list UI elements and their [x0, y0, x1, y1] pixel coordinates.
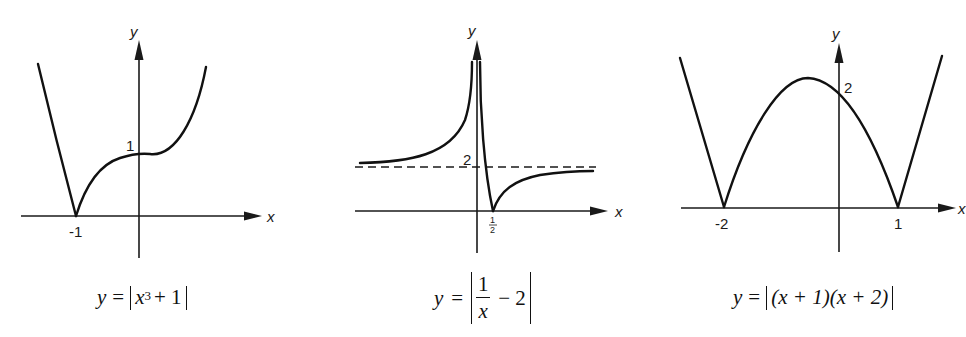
- graph-3-caption: y = (x + 1)(x + 2): [733, 285, 893, 310]
- graph-3-x-label: x: [957, 200, 966, 217]
- caption-2-eq: =: [451, 286, 463, 311]
- caption-1-base: x: [135, 285, 144, 310]
- figure-absolute-value-graphs: y x -1 1 y x 2 1: [0, 0, 966, 337]
- caption-1-rest: + 1: [154, 285, 182, 310]
- graph-3-tick-neg2: -2: [715, 215, 728, 232]
- graph-3-tick-1: 1: [894, 215, 902, 232]
- graph-1-y-arrow-icon: [135, 40, 144, 60]
- graph-1-x-arrow-icon: [244, 212, 262, 221]
- graph-1-caption: y = x3 + 1: [97, 285, 187, 310]
- graph-2-x-label: x: [614, 203, 623, 220]
- caption-3-lhs: y: [733, 285, 742, 310]
- graph-3-y-arrow-icon: [835, 43, 844, 63]
- graph-2-curve-right: [493, 171, 593, 211]
- graph-2-tick-2: 2: [463, 151, 471, 168]
- caption-1-exponent: 3: [145, 288, 152, 304]
- graph-3: y x -2 1 2: [680, 25, 966, 252]
- graph-2: y x 2 1 2: [355, 22, 623, 253]
- graph-3-y-label: y: [831, 25, 841, 42]
- caption-2-rest: − 2: [498, 286, 526, 311]
- caption-2-fraction: 1 x: [476, 274, 490, 322]
- graph-2-y-label: y: [467, 22, 477, 39]
- graph-3-tick-2: 2: [844, 79, 852, 96]
- graph-2-y-arrow-icon: [473, 40, 482, 60]
- graph-2-curve-mid: [480, 62, 493, 211]
- graph-3-curve-left: [680, 58, 724, 207]
- graph-1-tick-1: 1: [126, 137, 134, 154]
- graph-2-caption: y = 1 x − 2: [434, 272, 531, 324]
- graph-1-y-label: y: [129, 23, 139, 40]
- caption-2-denominator: x: [479, 298, 488, 322]
- caption-1-eq: =: [112, 285, 124, 310]
- graph-3-curve-right: [898, 56, 942, 207]
- caption-2-lhs: y: [434, 286, 443, 311]
- graph-2-x-arrow-icon: [590, 207, 608, 216]
- caption-3-eq: =: [748, 285, 760, 310]
- graph-1-curve-left: [38, 64, 76, 216]
- graph-2-tick-half: 1 2: [489, 215, 497, 235]
- caption-2-abs: 1 x − 2: [471, 272, 531, 324]
- graph-1-tick-neg1: -1: [69, 223, 82, 240]
- caption-3-abs: (x + 1)(x + 2): [766, 286, 893, 310]
- graph-2-tick-half-num: 1: [490, 215, 495, 225]
- caption-1-abs: x3 + 1: [130, 286, 186, 310]
- caption-3-body: (x + 1)(x + 2): [771, 285, 888, 310]
- graph-1-x-label: x: [266, 208, 275, 225]
- graph-3-curve-arch: [724, 78, 898, 207]
- graph-1-curve-right: [76, 67, 206, 216]
- graph-2-curve-left: [360, 62, 472, 163]
- graph-2-tick-half-den: 2: [490, 225, 495, 235]
- graph-3-x-arrow-icon: [938, 204, 956, 213]
- caption-2-numerator: 1: [478, 274, 489, 297]
- caption-1-lhs: y: [97, 285, 106, 310]
- graph-1: y x -1 1: [21, 23, 275, 258]
